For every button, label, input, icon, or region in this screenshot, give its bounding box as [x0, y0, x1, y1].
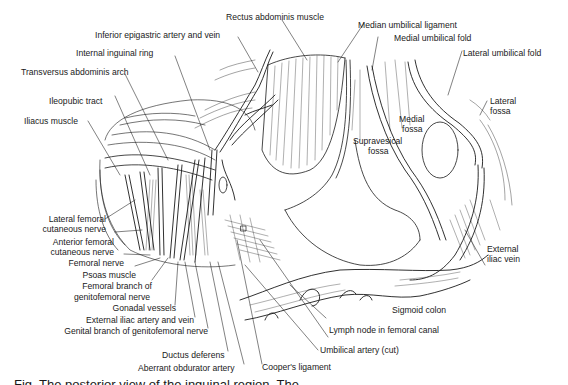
label-medial-fossa-line1: Medial — [399, 114, 424, 124]
label-aberrant-obdurator-artery: Aberrant obdurator artery — [138, 363, 235, 373]
medial-fossa-oval — [422, 122, 458, 178]
label-supravesical-fossa-line2: fossa — [368, 146, 389, 156]
label-lateral-umbilical-fold: Lateral umbilical fold — [463, 48, 541, 58]
label-sigmoid-colon: Sigmoid colon — [392, 305, 446, 315]
label-ductus-deferens: Ductus deferens — [162, 350, 225, 360]
label-femoral-branch-line1: Femoral branch of — [0, 281, 152, 291]
label-lymph-node-femoral-canal: Lymph node in femoral canal — [329, 325, 439, 335]
label-medial-fossa-line2: fossa — [402, 124, 423, 134]
nerve-bundles — [125, 158, 205, 262]
label-rectus-abdominis-muscle: Rectus abdominis muscle — [226, 12, 324, 22]
label-umbilical-artery-cut: Umbilical artery (cut) — [320, 345, 399, 355]
label-lateral-femoral-cutaneous-line2: cutaneous nerve — [0, 224, 106, 234]
caption-text: Fig. The posterior view of the inguinal … — [0, 378, 568, 385]
label-external-iliac-artery-and-vein: External iliac artery and vein — [0, 315, 194, 325]
label-transversus-abdominis-arch: Transversus abdominis arch — [21, 67, 129, 77]
label-medial-umbilical-fold: Medial umbilical fold — [394, 33, 471, 43]
psoas-hatching — [146, 175, 208, 255]
internal-inguinal-ring — [219, 177, 227, 193]
label-gonadal-vessels: Gonadal vessels — [0, 303, 176, 313]
label-lateral-femoral-cutaneous-line1: Lateral femoral — [0, 214, 106, 224]
label-supravesical-fossa-line1: Supravesical — [353, 136, 402, 146]
label-anterior-femoral-cutaneous-line2: cutaneous nerve — [0, 247, 114, 257]
label-anterior-femoral-cutaneous-line1: Anterior femoral — [0, 237, 114, 247]
label-external-iliac-vein-line2: iliac vein — [487, 254, 520, 264]
coopers-ligament-area — [225, 215, 280, 262]
label-internal-inguinal-ring: Internal inguinal ring — [76, 48, 153, 58]
transversalis-fascia-lines — [195, 60, 255, 128]
label-femoral-nerve: Femoral nerve — [0, 258, 124, 268]
label-ileopubic-tract: Ileopubic tract — [49, 96, 103, 106]
rectus-fibers — [270, 56, 338, 168]
label-external-iliac-vein-line1: External — [487, 244, 519, 254]
lateral-umbilical-fold — [408, 60, 484, 280]
label-inferior-epigastric-artery-and-vein: Inferior epigastric artery and vein — [95, 30, 220, 40]
label-iliacus-muscle: Iliacus muscle — [24, 116, 78, 126]
label-lateral-fossa-line1: Lateral — [490, 96, 516, 106]
label-lateral-fossa-line2: fossa — [490, 106, 511, 116]
figure-caption-partial: Fig. The posterior view of the inguinal … — [0, 378, 568, 385]
ileopubic-tract-band — [105, 155, 215, 180]
label-genital-branch-genitofemoral: Genital branch of genitofemoral nerve — [0, 326, 208, 336]
label-femoral-branch-line2: genitofemoral nerve — [0, 292, 150, 302]
bladder-region — [285, 140, 420, 265]
label-coopers-ligament: Cooper's ligament — [262, 362, 331, 372]
label-median-umbilical-ligament: Median umbilical ligament — [358, 20, 457, 30]
label-psoas-muscle: Psoas muscle — [0, 270, 136, 280]
